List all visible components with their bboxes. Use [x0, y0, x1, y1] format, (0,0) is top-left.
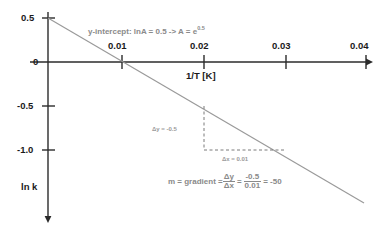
delta-y-annotation: Δy = -0.5 — [152, 126, 177, 132]
gradient-equals-1: = — [235, 178, 244, 186]
gradient-lead-text: m = gradient = — [168, 178, 223, 186]
y-intercept-text: y-intercept: lnA = 0.5 -> A = e — [88, 27, 197, 36]
gradient-fraction-values: -0.50.01 — [244, 173, 262, 191]
y-axis-title: ln k — [21, 182, 37, 192]
y-intercept-exponent: 0.5 — [197, 25, 205, 31]
x-axis-title: 1/T [K] — [186, 71, 216, 81]
x-tick-label-0.03: 0.03 — [272, 41, 291, 51]
x-axis — [30, 59, 373, 66]
gradient-frac2-denominator: 0.01 — [244, 182, 262, 190]
x-axis-arrow-icon — [366, 59, 373, 66]
y-axis-arrow-icon — [45, 216, 52, 223]
y-tick-label-0: 0 — [33, 57, 38, 67]
y-axis — [45, 12, 52, 223]
y-tick-label-0.5: 0.5 — [21, 13, 34, 23]
arrhenius-plot-figure: 0.5 0 -0.5 -1.0 ln k 0.01 0.02 0.03 0.04… — [0, 0, 377, 229]
x-tick-label-0.04: 0.04 — [350, 41, 369, 51]
y-intercept-annotation: y-intercept: lnA = 0.5 -> A = e0.5 — [88, 26, 205, 36]
x-tick-label-0.02: 0.02 — [190, 41, 209, 51]
gradient-frac1-denominator: Δx — [223, 182, 235, 190]
y-tick-label--0.5: -0.5 — [17, 101, 33, 111]
gradient-formula: m = gradient = ΔyΔx=-0.50.01= -50 — [168, 173, 282, 191]
gradient-fraction-delta: ΔyΔx — [223, 173, 235, 191]
delta-x-annotation: Δx = 0.01 — [222, 156, 248, 162]
x-tick-label-0.01: 0.01 — [108, 41, 127, 51]
y-tick-label--1.0: -1.0 — [17, 145, 33, 155]
gradient-result: = -50 — [261, 178, 281, 186]
